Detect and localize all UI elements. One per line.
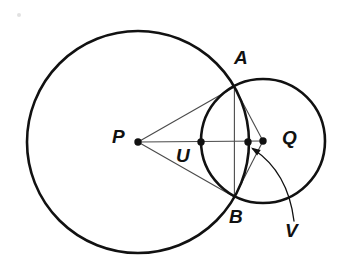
label-q: Q [282,128,297,147]
point-dot-p [134,138,141,145]
point-dot-v [244,138,251,145]
point-dot-q [259,137,266,144]
geometry-figure: P U Q A B V [0,0,349,279]
label-p: P [112,127,125,146]
scan-artifact-dot [17,13,21,17]
label-a: A [234,48,248,67]
label-b: B [229,207,243,226]
label-u: U [176,146,190,165]
label-v: V [285,221,298,240]
v-pointer-arrow [253,149,294,221]
point-dot-u [197,138,204,145]
